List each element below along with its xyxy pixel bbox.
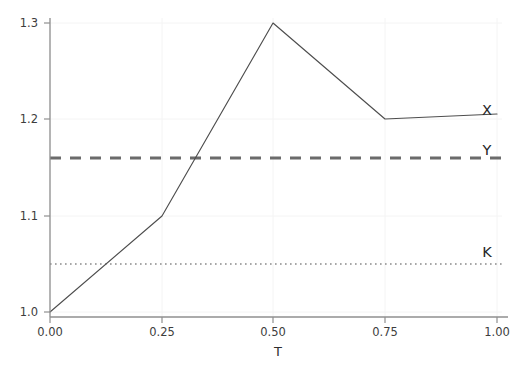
plot-background bbox=[50, 18, 502, 317]
series-label-k: K bbox=[482, 244, 492, 260]
x-axis-ticks bbox=[50, 317, 497, 323]
x-tick-label-0.50: 0.50 bbox=[260, 325, 286, 339]
series-label-y: Y bbox=[482, 142, 492, 158]
series-label-x: X bbox=[482, 102, 492, 118]
y-axis-ticks bbox=[44, 23, 50, 312]
line-chart-canvas: 1.0 1.1 1.2 1.3 0.00 0.25 0.50 0.75 1.00… bbox=[0, 0, 524, 368]
y-tick-label-1.1: 1.1 bbox=[20, 209, 38, 223]
x-tick-label-0.00: 0.00 bbox=[37, 325, 63, 339]
y-tick-label-1.2: 1.2 bbox=[20, 112, 38, 126]
x-tick-label-1.00: 1.00 bbox=[484, 325, 510, 339]
x-tick-label-0.75: 0.75 bbox=[372, 325, 398, 339]
chart-figure: 1.0 1.1 1.2 1.3 0.00 0.25 0.50 0.75 1.00… bbox=[0, 0, 524, 368]
y-tick-label-1.3: 1.3 bbox=[20, 16, 38, 30]
y-tick-label-1.0: 1.0 bbox=[20, 305, 38, 319]
x-axis-title: T bbox=[273, 344, 282, 359]
x-tick-label-0.25: 0.25 bbox=[149, 325, 175, 339]
